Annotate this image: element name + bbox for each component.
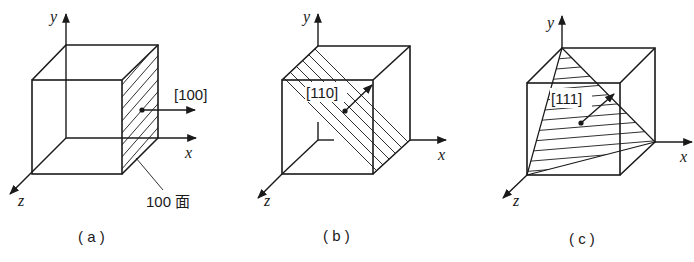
- caption-a: ( a ): [78, 228, 105, 245]
- panel-b: y x z [110] ( b ): [240, 8, 450, 244]
- z-axis-label: z: [263, 192, 271, 209]
- direction-label-111: [111]: [551, 90, 582, 107]
- panel-a: y x z [100] 100 面 ( a ): [10, 8, 207, 245]
- x-axis-label: x: [679, 148, 687, 165]
- z-axis-inner: [282, 140, 318, 174]
- x-axis-label: x: [437, 146, 445, 163]
- normal-arrow-110: [345, 85, 372, 111]
- caption-c: ( c ): [569, 230, 595, 247]
- y-axis-label: y: [545, 14, 555, 32]
- plane-leader-line: [136, 158, 163, 190]
- caption-b: ( b ): [323, 227, 350, 244]
- direction-label-100: [100]: [174, 86, 207, 103]
- x-axis-label: x: [184, 144, 192, 161]
- z-axis-label: z: [512, 192, 520, 209]
- z-axis: [10, 138, 66, 194]
- direction-label-110: [110]: [306, 84, 338, 101]
- cube-a: [32, 45, 158, 174]
- panel-c: y x z [111] ( c ): [503, 14, 692, 247]
- plane-111-hatch: [520, 50, 665, 182]
- crystal-plane-figure: y x z [100] 100 面 ( a ): [0, 0, 694, 262]
- plane-label-100: 100 面: [146, 193, 190, 210]
- y-axis-label: y: [301, 8, 311, 26]
- plane-110-hatch: [240, 10, 450, 220]
- z-axis-label: z: [17, 192, 25, 209]
- y-axis-label: y: [48, 8, 58, 26]
